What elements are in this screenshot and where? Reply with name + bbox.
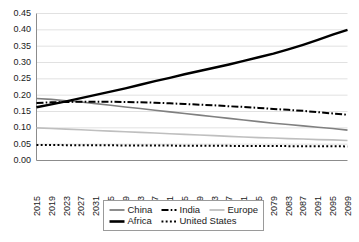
legend-label: China xyxy=(128,204,154,215)
y-tick-label: 0.15 xyxy=(13,106,31,116)
x-tick-label: 2095 xyxy=(328,196,338,216)
y-tick-label: 0.45 xyxy=(13,8,31,18)
y-tick-label: 0.05 xyxy=(13,139,31,149)
y-tick-label: 0.10 xyxy=(13,122,31,132)
series-line-africa xyxy=(37,30,348,107)
series-line-china xyxy=(37,98,348,130)
y-tick-label: 0.00 xyxy=(13,155,31,165)
y-tick-label: 0.25 xyxy=(13,73,31,83)
y-tick-label: 0.20 xyxy=(13,90,31,100)
legend-label: United States xyxy=(180,215,237,226)
chart-container: 0.000.050.100.150.200.250.300.350.400.45… xyxy=(0,0,359,242)
x-tick-label: 2099 xyxy=(343,196,353,216)
series-line-united-states xyxy=(37,145,348,146)
x-tick-label: 2027 xyxy=(76,196,86,216)
y-tick-label: 0.35 xyxy=(13,41,31,51)
x-tick-label: 2019 xyxy=(47,196,57,216)
data-series xyxy=(37,30,348,147)
y-tick-label: 0.40 xyxy=(13,24,31,34)
x-tick-label: 2087 xyxy=(298,196,308,216)
gridlines xyxy=(37,14,348,145)
chart-legend: ChinaIndiaEuropeAfricaUnited States xyxy=(104,201,264,231)
legend-label: India xyxy=(180,204,201,215)
series-line-europe xyxy=(37,128,348,141)
x-tick-label: 2091 xyxy=(313,196,323,216)
series-line-india xyxy=(37,102,348,115)
y-axis-ticks: 0.000.050.100.150.200.250.300.350.400.45 xyxy=(13,8,31,165)
x-tick-label: 2031 xyxy=(91,196,101,216)
x-tick-label: 2083 xyxy=(284,196,294,216)
legend-label: Africa xyxy=(128,215,153,226)
x-tick-label: 2079 xyxy=(269,196,279,216)
legend-label: Europe xyxy=(228,204,259,215)
x-tick-label: 2023 xyxy=(62,196,72,216)
line-chart: 0.000.050.100.150.200.250.300.350.400.45… xyxy=(0,0,359,242)
y-tick-label: 0.30 xyxy=(13,57,31,67)
x-tick-label: 2015 xyxy=(32,196,42,216)
